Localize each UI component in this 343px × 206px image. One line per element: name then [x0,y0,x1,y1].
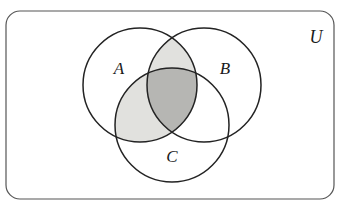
venn-diagram-figure: A B C U [0,0,343,206]
set-label-b: B [220,59,231,78]
region-a-and-b-and-c [0,0,343,206]
venn-diagram-canvas: A B C U [0,0,343,206]
set-label-a: A [113,59,125,78]
region-a-and-b-and-c-fill [0,0,343,206]
set-label-c: C [166,147,178,166]
universal-set-label: U [310,27,324,47]
